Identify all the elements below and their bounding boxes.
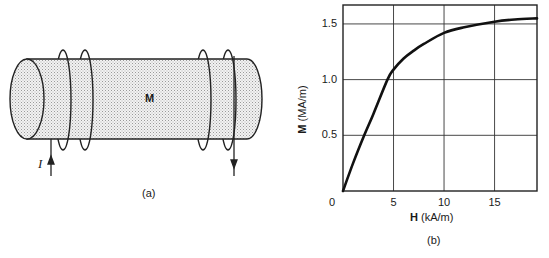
arrow-up-icon [48, 156, 54, 164]
arrow-down-icon [231, 160, 237, 168]
caption-b: (b) [427, 235, 440, 246]
magnetization-curve [343, 18, 537, 191]
y-tick-label: 0.5 [313, 129, 337, 140]
x-tick-label: 15 [483, 197, 507, 208]
x-axis-label: H (kA/m) [410, 212, 453, 223]
panel-a-solenoid-diagram: M I (a) [0, 0, 280, 258]
plot-frame [343, 5, 537, 191]
caption-a: (a) [142, 188, 155, 199]
panel-b-magnetization-chart: 0.51.01.5 051015 M (MA/m) H (kA/m) (b) [280, 0, 549, 258]
y-tick-label: 1.5 [313, 18, 337, 29]
y-axis-unit: (MA/m) [296, 85, 308, 121]
x-axis-symbol: H [410, 211, 418, 223]
y-tick-label: 1.0 [313, 74, 337, 85]
chart-grid [343, 5, 537, 191]
current-label: I [38, 157, 42, 170]
cylinder [10, 59, 262, 139]
y-axis-symbol: M [296, 124, 308, 133]
x-tick-label: 0 [320, 197, 344, 208]
magnetization-label: M [145, 93, 154, 104]
x-axis-unit: (kA/m) [421, 211, 453, 223]
y-axis-label: M (MA/m) [297, 70, 308, 150]
solenoid-illustration [0, 0, 280, 258]
x-tick-label: 5 [382, 197, 406, 208]
x-tick-label: 10 [432, 197, 456, 208]
current-lead-in [48, 139, 54, 176]
